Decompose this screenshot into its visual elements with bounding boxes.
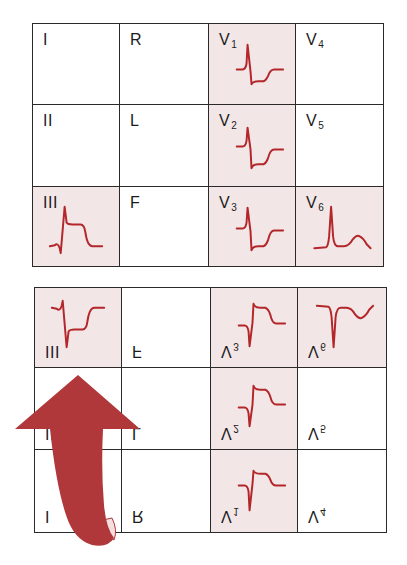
lead-label: F [132,343,142,359]
lead-cell-V4-mirrored: V4 [298,450,386,532]
lead-cell-V1-mirrored: V1 [211,450,298,532]
ecg-waveform-st-elevation [209,24,295,104]
ecg-waveform-mirrored [35,288,121,367]
lead-grid-mirrored: III F V3 V6 II L V2 V5 I R [34,287,387,533]
lead-cell-F: F [120,187,209,266]
ecg-waveform-mirrored [298,288,386,367]
lead-cell-V3-mirrored: V3 [211,288,298,368]
lead-label: I [43,32,48,48]
lead-cell-V2: V2 [209,105,296,187]
lead-cell-V5-mirrored: V5 [298,368,386,450]
lead-cell-V5: V5 [296,105,383,187]
lead-label: V5 [308,423,326,441]
ecg-waveform-tall-r-wave [296,187,383,266]
ecg-waveform-mirrored [211,450,297,532]
lead-cell-III: III [33,187,120,266]
ecg-waveform-st-elevation [209,105,295,186]
lead-cell-V6: V6 [296,187,383,266]
lead-cell-II: II [33,105,120,187]
lead-cell-I-mirrored: I [35,450,122,532]
ecg-waveform-mirrored [211,288,297,367]
lead-cell-R: R [120,24,209,105]
ecg-waveform-mirrored [211,368,297,449]
lead-label: R [132,508,144,524]
lead-cell-V1: V1 [209,24,296,105]
lead-grid-upright: I R V1 V4 II L V2 V5 III F V3 [32,23,384,267]
lead-cell-R-mirrored: R [122,450,211,532]
lead-label: II [45,425,55,441]
lead-cell-II-mirrored: II [35,368,122,450]
lead-cell-L: L [120,105,209,187]
ecg-waveform-st-elevation [33,187,119,266]
lead-label: V4 [308,506,326,524]
lead-cell-V3: V3 [209,187,296,266]
lead-label: V4 [306,32,324,50]
lead-cell-L-mirrored: L [122,368,211,450]
lead-label: L [132,425,141,441]
lead-cell-I: I [33,24,120,105]
lead-cell-F-mirrored: F [122,288,211,368]
lead-cell-V6-mirrored: V6 [298,288,386,368]
lead-label: F [130,195,140,211]
lead-cell-V2-mirrored: V2 [211,368,298,450]
lead-cell-III-mirrored: III [35,288,122,368]
lead-label: II [43,113,53,129]
lead-label: I [45,508,50,524]
ecg-waveform-st-elevation [209,187,295,266]
lead-label: V5 [306,113,324,131]
lead-cell-V4: V4 [296,24,383,105]
lead-label: L [130,113,139,129]
lead-label: R [130,32,142,48]
